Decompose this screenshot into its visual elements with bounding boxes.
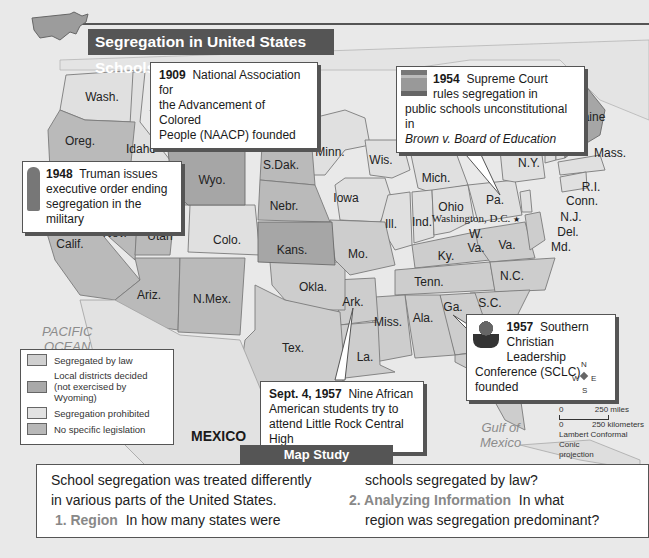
callout-year: Sept. 4, 1957 (269, 387, 342, 401)
map-title: Segregation in United States Schools, 19… (88, 29, 334, 55)
state-label: Conn. (566, 194, 598, 208)
legend-swatch (27, 407, 47, 419)
state-label: Calif. (56, 237, 83, 251)
scale-bar: 0250 miles 0250 kilometers Lambert Confo… (559, 405, 649, 460)
question-2-text: In what (519, 492, 564, 508)
state-label: Mo. (348, 247, 368, 261)
callout-text: Christian Leadership (507, 335, 607, 365)
map-study-col2: schools segregated by law? 2. Analyzing … (349, 470, 649, 530)
legend-item-local: Local districts decided(not exercised by… (27, 370, 167, 403)
callout-text: American students try to (269, 402, 415, 417)
compass-e: E (591, 374, 596, 383)
legend-label: Local districts decided(not exercised by… (54, 370, 167, 403)
supreme-court-building-icon (401, 70, 427, 96)
gulf-line1: Gulf of (480, 420, 521, 435)
state-label: W. (469, 227, 483, 241)
callout-text: executive order ending (46, 182, 173, 197)
scale-km-zero: 0 (559, 420, 563, 430)
state-label: Wis. (369, 153, 392, 167)
question-2-text: region was segregation predominant? (349, 510, 649, 530)
us-silhouette-icon (30, 10, 90, 44)
legend-label-line2: (not exercised by Wyoming) (54, 381, 126, 403)
state-label: Minn. (315, 145, 344, 159)
state-label: Md. (551, 240, 571, 254)
scale-miles-zero: 0 (559, 405, 563, 415)
callout-text: Brown v. Board of Education (405, 132, 576, 147)
map-study-tab: Map Study (240, 445, 393, 464)
legend-item-prohibited: Segregation prohibited (27, 407, 167, 419)
state-label: Okla. (299, 280, 327, 294)
legend-item-segregated: Segregated by law (27, 354, 167, 366)
state-label: Iowa (333, 191, 358, 205)
state-label: S.Dak. (263, 158, 299, 172)
question-2-label: 2. Analyzing Information (349, 492, 511, 508)
state-label: N.Y. (518, 156, 540, 170)
legend-label: Segregation prohibited (54, 408, 150, 419)
state-label: N.Mex. (193, 292, 231, 306)
portrait-icon (473, 320, 499, 348)
state-label: Ark. (342, 295, 363, 309)
legend-label-line1: Local districts decided (54, 370, 147, 381)
state-label: Nebr. (270, 199, 299, 213)
state-label: Del. (557, 225, 578, 239)
state-label: Mass. (594, 146, 626, 160)
callout-text: public schools unconstitutional in (405, 102, 576, 132)
state-label: S.C. (478, 296, 501, 310)
svg-text:★: ★ (513, 215, 520, 224)
callout-text: rules segregation in (433, 87, 548, 102)
map-study-box: School segregation was treated different… (36, 464, 649, 538)
question-1-text: schools segregated by law? (349, 470, 649, 490)
state-label: Pa. (486, 193, 504, 207)
callout-text: attend Little Rock Central High (269, 417, 415, 447)
soldier-icon (27, 167, 40, 211)
callout-text: People (NAACP) founded (159, 128, 309, 143)
state-label: Wyo. (198, 173, 225, 187)
state-label: Ariz. (137, 288, 161, 302)
state-label: R.I. (582, 180, 601, 194)
callout-naacp: 1909 National Association for the Advanc… (150, 62, 318, 149)
state-label: Ind. (412, 215, 432, 229)
question-1-label: 1. Region (55, 512, 118, 528)
map-page: ★ Segregation in United States Schools, … (0, 0, 649, 558)
capital-label: Washington, D.C. (432, 212, 511, 224)
state-label: Kans. (277, 243, 308, 257)
callout-year: 1957 (507, 320, 534, 334)
mexico-label: MEXICO (191, 428, 246, 444)
state-label: Colo. (213, 233, 241, 247)
callout-year: 1954 (433, 72, 460, 86)
state-label: Ill. (385, 217, 397, 231)
legend-swatch (27, 354, 47, 366)
map-study-col1: School segregation was treated different… (51, 470, 341, 530)
legend-swatch (27, 381, 47, 393)
callout-text: Nine African (348, 387, 413, 401)
callout-sclc: 1957 Southern Christian Leadership Confe… (466, 314, 616, 401)
state-label: La. (357, 350, 374, 364)
state-label: Ga. (443, 300, 462, 314)
state-label: Tenn. (414, 275, 443, 289)
callout-text: Supreme Court (466, 72, 547, 86)
title-rule (80, 23, 649, 25)
gulf-of-mexico-label: Gulf of Mexico (480, 420, 521, 450)
legend-label: Segregated by law (54, 355, 133, 366)
state-label: Wash. (85, 90, 119, 104)
callout-year: 1909 (159, 68, 186, 82)
legend-swatch (27, 423, 47, 435)
projection-label: projection (559, 450, 649, 460)
pacific-line1: PACIFIC (42, 324, 92, 339)
compass-s: S (582, 386, 587, 395)
gulf-line2: Mexico (480, 435, 521, 450)
state-label: Va. (467, 241, 484, 255)
state-label: N.J. (560, 210, 581, 224)
callout-truman: 1948 Truman issues executive order endin… (22, 161, 182, 233)
state-label: Tex. (282, 341, 304, 355)
callout-text: segregation in the military (46, 197, 173, 227)
map-legend: Segregated by law Local districts decide… (20, 349, 174, 445)
state-label: Oreg. (65, 134, 95, 148)
state-label: Ky. (438, 249, 454, 263)
projection-label: Lambert Conformal Conic (559, 430, 649, 450)
state-label: Miss. (374, 315, 402, 329)
scale-miles-label: 250 miles (595, 405, 629, 415)
callout-brown-v-board: 1954 Supreme Court rules segregation in … (396, 66, 585, 153)
state-label: Mich. (422, 171, 451, 185)
compass-n: N (581, 360, 587, 369)
